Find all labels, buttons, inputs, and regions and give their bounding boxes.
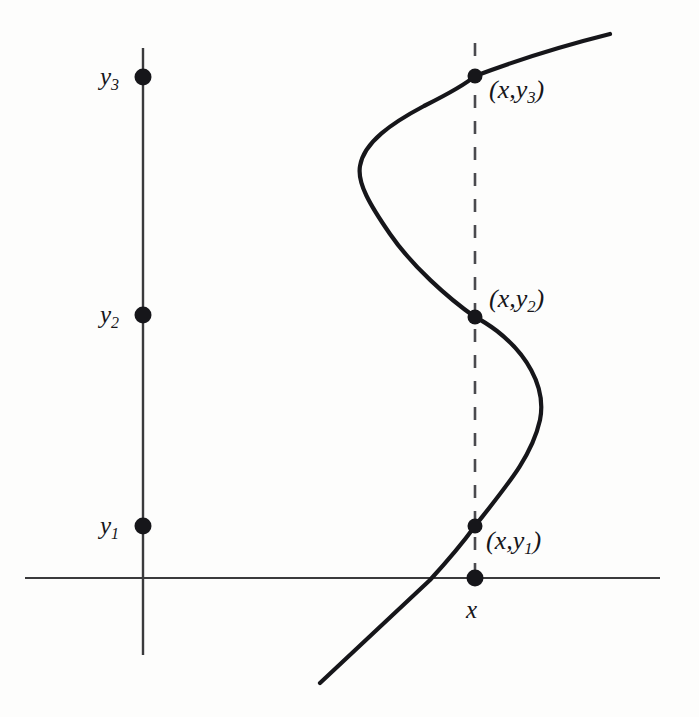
label-x: x bbox=[466, 597, 477, 622]
s-curve-path bbox=[320, 34, 610, 683]
point-y2 bbox=[135, 307, 152, 324]
figure-canvas bbox=[0, 0, 699, 717]
label-point-x-y1: (x,y1) bbox=[486, 528, 541, 554]
point-y3 bbox=[135, 69, 152, 86]
point-x-on-axis bbox=[467, 570, 484, 587]
label-y1: y1 bbox=[100, 513, 119, 538]
label-point-x-y2: (x,y2) bbox=[489, 286, 544, 312]
label-y3: y3 bbox=[100, 64, 119, 89]
point-x-y3 bbox=[468, 69, 483, 84]
label-point-x-y3: (x,y3) bbox=[489, 77, 544, 103]
vertical-line-test-figure: y3 y2 y1 x (x,y3) (x,y2) (x,y1) bbox=[0, 0, 699, 717]
point-x-y2 bbox=[468, 310, 483, 325]
point-y1 bbox=[135, 518, 152, 535]
point-x-y1 bbox=[468, 519, 483, 534]
label-y2: y2 bbox=[100, 302, 119, 327]
